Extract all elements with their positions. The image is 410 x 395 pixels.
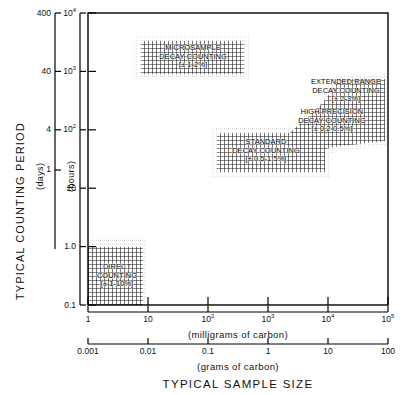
- y-tick-hours-10000: 104: [54, 8, 76, 18]
- x-tick-g-0.01: 0.01: [128, 346, 168, 356]
- standard-line3: [± 0.5-1.5%]: [216, 155, 316, 164]
- x-tick-g-0.1: 0.1: [188, 346, 228, 356]
- x-tick-mg-100000: 105: [373, 314, 403, 324]
- region-label-microsample: MICROSAMPLE DECAY COUNTING [± 1-2%]: [143, 44, 243, 70]
- y-tick-days-40: 40: [24, 66, 51, 76]
- y-axis-hours-label: (hours): [66, 161, 76, 192]
- chart-figure: 104 103 102 10 1.0 0.1 400 40 4 1 TYPICA…: [0, 0, 410, 395]
- x-tick-mg-1000: 103: [253, 314, 283, 324]
- x-tick-mg-10: 10: [133, 314, 163, 324]
- x-tick-g-100: 100: [368, 346, 408, 356]
- y-tick-hours-100: 102: [54, 124, 76, 134]
- x-axis-mg-spine: [88, 306, 388, 312]
- x-tick-g-10: 10: [308, 346, 348, 356]
- y-tick-days-4: 4: [24, 124, 51, 134]
- direct-counting-line3: [± 1-10%]: [91, 280, 143, 289]
- x-axis-grams-label: (grams of carbon): [158, 361, 318, 372]
- x-tick-g-0.001: 0.001: [68, 346, 108, 356]
- x-axis-mg-label: (milligrams of carbon): [138, 329, 338, 340]
- x-tick-mg-10000: 104: [313, 314, 343, 324]
- y-axis-days-label: (days): [35, 163, 45, 190]
- y-axis-title: TYPICAL COUNTING PERIOD: [14, 122, 26, 300]
- y-tick-hours-0.1: 0.1: [52, 300, 76, 310]
- microsample-line3: [± 1-2%]: [143, 61, 243, 70]
- chart-title: TYPICAL SAMPLE SIZE: [118, 378, 358, 390]
- x-tick-g-1: 1: [248, 346, 288, 356]
- region-label-high-precision: HIGH PRECISION DECAY COUNTING [± 0.2-0.5…: [282, 108, 382, 134]
- extended-range-line3: [± 2-3%]: [302, 95, 390, 104]
- region-label-extended-range: EXTENDED RANGE DECAY COUNTING [± 2-3%]: [302, 78, 390, 104]
- y-tick-days-400: 400: [24, 8, 51, 18]
- high-precision-line3: [± 0.2-0.5%]: [282, 125, 382, 134]
- region-label-standard: STANDARD DECAY COUNTING [± 0.5-1.5%]: [216, 138, 316, 164]
- x-tick-mg-1: 1: [73, 314, 103, 324]
- x-tick-mg-100: 102: [193, 314, 223, 324]
- region-label-direct-counting: DIRECT COUNTING [± 1-10%]: [91, 263, 143, 289]
- y-tick-hours-1000: 103: [54, 66, 76, 76]
- y-tick-hours-1: 1.0: [52, 241, 76, 251]
